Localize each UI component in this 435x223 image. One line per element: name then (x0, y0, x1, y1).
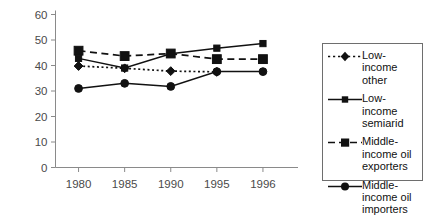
x-tick-label: 1995 (204, 178, 230, 190)
data-point-marker (213, 68, 221, 76)
chart-legend: Low- income other Low- income semiarid M… (322, 43, 423, 181)
x-tick-label: 1985 (112, 178, 138, 190)
legend-swatch-dotted-diamond-icon (328, 50, 362, 63)
data-point-marker (214, 45, 220, 51)
plot-area: 0102030405060 19801985199019951996 (0, 0, 310, 223)
y-tick-label: 60 (35, 9, 48, 21)
data-point-marker (75, 85, 83, 93)
x-axis-ticks: 19801985199019951996 (66, 168, 276, 190)
y-tick-label: 10 (35, 136, 48, 148)
data-point-marker (166, 67, 175, 76)
x-tick-label: 1990 (158, 178, 184, 190)
data-point-marker (120, 52, 129, 61)
data-point-marker (259, 68, 267, 76)
series-middle-income-oil-exporters (74, 46, 267, 63)
data-point-marker (74, 46, 83, 55)
plot-svg: 0102030405060 19801985199019951996 (0, 0, 310, 223)
y-tick-label: 30 (35, 85, 48, 97)
series-low-income-other (74, 62, 221, 77)
y-tick-label: 20 (35, 111, 48, 123)
legend-entry-middle-income-oil-exporters: Middle- income oil exporters (328, 135, 418, 172)
y-axis-ticks: 0102030405060 (35, 9, 56, 174)
legend-entry-middle-income-oil-importers: Middle- income oil importers (328, 179, 418, 216)
data-point-marker (260, 40, 266, 46)
data-point-marker (75, 55, 81, 61)
data-point-marker (166, 49, 175, 58)
legend-label: Middle- income oil importers (362, 179, 412, 216)
legend-swatch-solid-circle-icon (328, 180, 362, 193)
data-series-group (74, 40, 267, 92)
legend-label: Low- income other (362, 49, 397, 86)
axes (56, 11, 299, 168)
legend-swatch-dashed-square-icon (328, 136, 362, 149)
x-tick-label: 1980 (66, 178, 92, 190)
x-tick-label: 1996 (250, 178, 276, 190)
data-point-marker (167, 83, 175, 91)
legend-entry-low-income-other: Low- income other (328, 49, 418, 86)
legend-swatch-solid-square-icon (328, 93, 362, 106)
data-point-marker (259, 55, 268, 64)
y-tick-label: 0 (41, 162, 47, 174)
legend-entry-low-income-semiarid: Low- income semiarid (328, 92, 418, 129)
data-point-marker (122, 65, 128, 71)
data-point-marker (121, 79, 129, 87)
y-tick-label: 40 (35, 60, 48, 72)
data-point-marker (212, 55, 221, 64)
line-chart-figure: 0102030405060 19801985199019951996 Low- … (0, 0, 435, 223)
y-tick-label: 50 (35, 34, 48, 46)
data-point-marker (74, 62, 83, 71)
legend-label: Middle- income oil exporters (362, 135, 412, 172)
legend-label: Low- income semiarid (362, 92, 404, 129)
series-line (79, 66, 217, 72)
